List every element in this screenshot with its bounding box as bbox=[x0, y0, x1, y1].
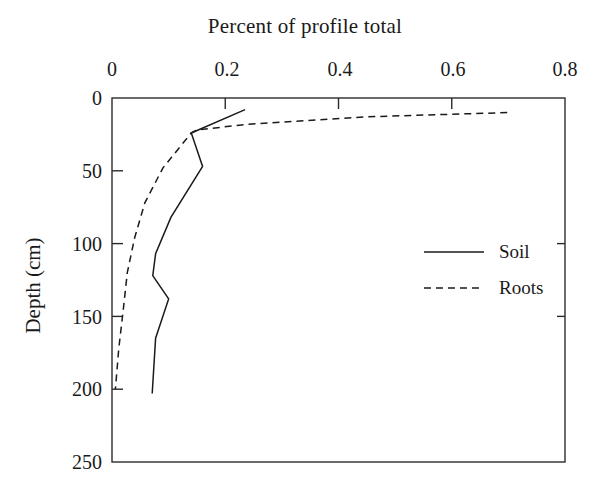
chart-figure: Percent of profile total 0 0.2 0.4 0.6 0… bbox=[0, 0, 610, 496]
plot-frame bbox=[112, 98, 565, 462]
legend-label-soil: Soil bbox=[499, 241, 530, 263]
legend-label-roots: Roots bbox=[499, 277, 543, 299]
x-axis-ticks bbox=[225, 98, 452, 109]
y-axis-right-ticks bbox=[557, 244, 565, 317]
legend-sample-lines bbox=[424, 252, 484, 288]
series-line-roots bbox=[115, 113, 507, 390]
series-line-soil bbox=[152, 110, 245, 394]
